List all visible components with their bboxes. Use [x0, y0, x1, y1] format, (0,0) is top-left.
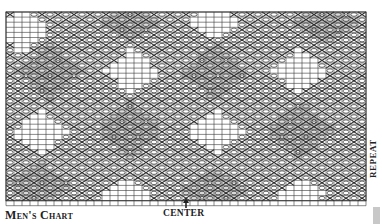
chart-title: Men's Chart	[5, 208, 73, 223]
repeat-label: REPEAT	[368, 139, 378, 178]
scrollbar-fragment[interactable]	[373, 207, 380, 224]
knitting-chart	[0, 0, 382, 224]
center-label: CENTER	[163, 208, 204, 218]
